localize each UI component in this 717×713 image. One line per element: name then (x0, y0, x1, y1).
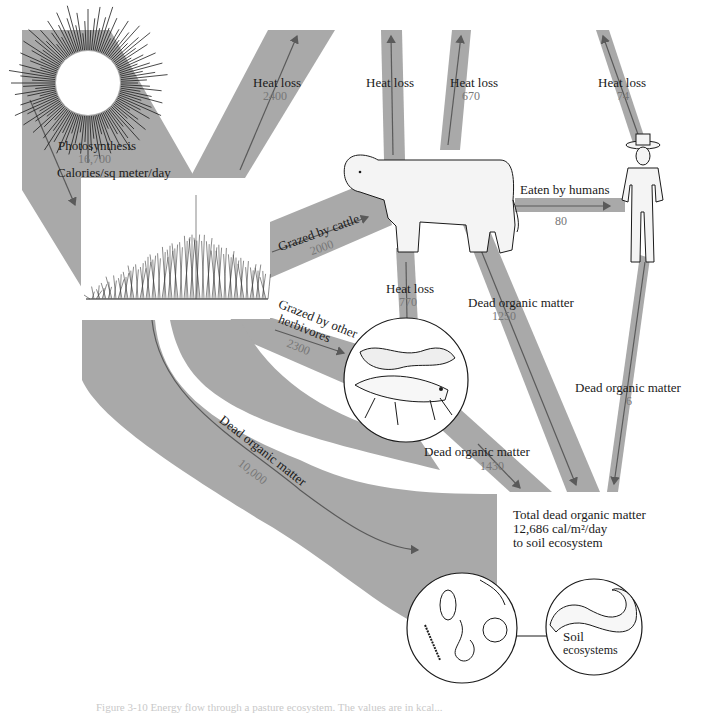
earthworm-illustration (546, 579, 642, 675)
herbivore-heat-loss-label: Heat loss (450, 75, 498, 90)
photosynthesis-unit: Calories/sq meter/day (57, 165, 171, 180)
soil-ecosystems-label-2: ecosystems (563, 643, 618, 658)
human-dead-matter-label: Dead organic matter (575, 380, 681, 395)
cattle-heat-loss-value: 770 (399, 295, 417, 309)
photosynthesis-value: 16,700 (78, 152, 111, 166)
band-human-dead-matter (607, 255, 650, 492)
herbivore-heat-loss-value: 670 (462, 89, 480, 103)
figure-caption: Figure 3-10 Energy flow through a pastur… (96, 701, 443, 713)
human-dead-matter-value: 6 (626, 394, 632, 408)
herbivore-dead-matter-value: 1430 (480, 459, 504, 473)
photosynthesis-label: Photosynthesis (58, 138, 136, 153)
human-illustration (622, 134, 663, 262)
human-heat-loss-value: 74 (617, 89, 629, 103)
cattle-dead-matter-value: 1250 (492, 309, 516, 323)
caterpillar-grasshopper-illustration (344, 318, 468, 442)
total-dead-matter-line-3: to soil ecosystem (513, 535, 603, 550)
band-eaten-by-humans (515, 198, 625, 212)
cattle-heat-loss-label: Heat loss (386, 281, 434, 296)
total-dead-matter-line-2: 12,686 cal/m²/day (513, 521, 607, 536)
soil-invertebrates-illustration (407, 573, 517, 683)
cattle-dead-matter-label: Dead organic matter (468, 295, 574, 310)
producer-heat-loss-label: Heat loss (253, 75, 301, 90)
eaten-by-humans-value: 80 (555, 214, 567, 228)
cattle-heat-loss-top-label: Heat loss (366, 75, 414, 90)
band-producer-heat-loss (190, 30, 335, 178)
grassland-illustration (81, 178, 270, 319)
soil-ecosystems-label-1: Soil (563, 629, 584, 644)
producer-heat-loss-value: 2400 (263, 89, 287, 103)
total-dead-matter-line-1: Total dead organic matter (513, 507, 646, 522)
herbivore-dead-matter-label: Dead organic matter (424, 444, 530, 459)
human-heat-loss-label: Heat loss (598, 75, 646, 90)
eaten-by-humans-label: Eaten by humans (520, 182, 610, 197)
